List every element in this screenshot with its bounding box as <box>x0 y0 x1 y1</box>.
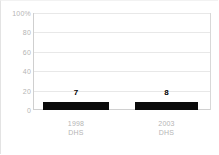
bar-2003[interactable] <box>135 102 198 110</box>
y-tick-20: 20 <box>1 88 31 95</box>
x-label-1998: 1998 DHS <box>43 119 109 137</box>
x-label-1998-source: DHS <box>43 128 109 137</box>
x-label-2003-source: DHS <box>135 128 198 137</box>
x-label-1998-year: 1998 <box>43 119 109 128</box>
gridline-100 <box>34 13 210 14</box>
bar-value-1998: 7 <box>43 89 109 97</box>
gridline-40 <box>34 71 210 72</box>
x-label-2003-year: 2003 <box>135 119 198 128</box>
x-label-2003: 2003 DHS <box>135 119 198 137</box>
gridline-60 <box>34 52 210 53</box>
y-tick-40: 40 <box>1 68 31 75</box>
y-tick-100: 100% <box>1 10 31 17</box>
bar-chart: 100% 80 60 40 20 0 7 8 1998 DHS 2003 DHS <box>0 0 219 155</box>
y-tick-60: 60 <box>1 49 31 56</box>
gridline-80 <box>34 32 210 33</box>
bar-1998[interactable] <box>43 102 109 110</box>
bar-value-2003: 8 <box>135 89 198 97</box>
y-axis: 100% 80 60 40 20 0 <box>0 0 31 155</box>
y-tick-0: 0 <box>1 107 31 114</box>
y-tick-80: 80 <box>1 29 31 36</box>
